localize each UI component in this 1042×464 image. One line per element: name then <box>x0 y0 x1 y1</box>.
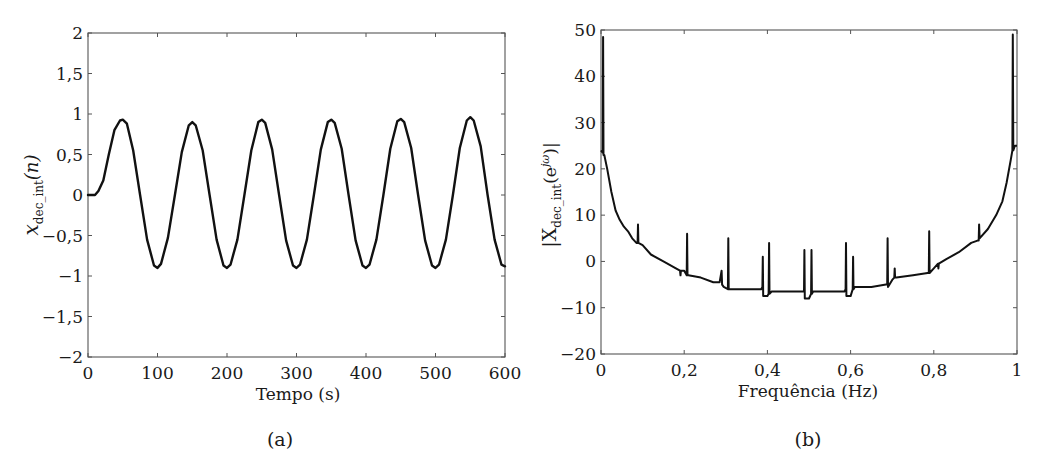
y-tick-label: 0 <box>585 251 596 271</box>
chart-b-plot-frame <box>601 30 1017 354</box>
chart-b-caption: (b) <box>795 428 822 450</box>
x-tick-label: 500 <box>419 363 451 383</box>
chart-a-plot-frame <box>88 33 505 357</box>
chart-b-x-axis-label: Frequência (Hz) <box>738 381 878 401</box>
y-tick-label: 20 <box>574 159 596 179</box>
y-tick-label: −10 <box>560 298 596 318</box>
x-tick-label: 1 <box>1012 360 1023 380</box>
y-tick-label: 0,5 <box>56 145 83 165</box>
chart-a-y-ticks: 21,510,50−0,5−1−1,5−2 <box>42 23 505 367</box>
x-tick-label: 0 <box>83 363 94 383</box>
y-tick-label: 30 <box>574 113 596 133</box>
y-tick-label: 1,5 <box>56 64 83 84</box>
chart-a-x-ticks: 0100200300400500600 <box>83 33 522 383</box>
chart-a-y-axis-label: xdec_int(n) <box>19 155 46 236</box>
chart-b-magnitude-spectrum: 00,20,40,60,81 50403020100−10−20 Frequên… <box>538 20 1022 450</box>
chart-a-signal-line <box>88 117 505 268</box>
x-tick-label: 0,4 <box>754 360 781 380</box>
y-tick-label: 50 <box>574 20 596 40</box>
chart-b-y-axis-label: |Xdec_int(ejω)| <box>538 142 564 247</box>
x-tick-label: 300 <box>280 363 312 383</box>
chart-b-spectrum-line <box>601 35 1017 299</box>
chart-b-y-ticks: 50403020100−10−20 <box>560 20 1017 364</box>
y-tick-label: −0,5 <box>42 226 83 246</box>
x-tick-label: 0 <box>596 360 607 380</box>
y-tick-label: 0 <box>72 185 83 205</box>
x-tick-label: 200 <box>211 363 243 383</box>
chart-a-caption: (a) <box>267 428 293 450</box>
chart-a-time-signal: 0100200300400500600 21,510,50−0,5−1−1,5−… <box>19 23 521 450</box>
y-tick-label: 2 <box>72 23 83 43</box>
chart-b-x-ticks: 00,20,40,60,81 <box>596 30 1023 380</box>
y-tick-label: 40 <box>574 66 596 86</box>
y-tick-label: −1,5 <box>42 307 83 327</box>
x-tick-label: 0,2 <box>671 360 698 380</box>
x-tick-label: 600 <box>489 363 521 383</box>
y-tick-label: 1 <box>72 104 83 124</box>
y-tick-label: 10 <box>574 205 596 225</box>
figure: 0100200300400500600 21,510,50−0,5−1−1,5−… <box>0 0 1042 464</box>
x-tick-label: 0,8 <box>920 360 947 380</box>
x-tick-label: 100 <box>141 363 173 383</box>
x-tick-label: 0,6 <box>837 360 864 380</box>
chart-a-x-axis-label: Tempo (s) <box>256 384 341 404</box>
y-tick-label: −2 <box>58 347 83 367</box>
y-tick-label: −1 <box>58 266 83 286</box>
x-tick-label: 400 <box>350 363 382 383</box>
y-tick-label: −20 <box>560 344 596 364</box>
